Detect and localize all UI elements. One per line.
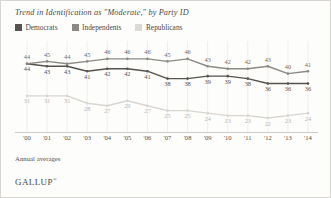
x-tick-label: '05 <box>123 134 131 141</box>
x-tick-label: '10 <box>224 134 232 141</box>
legend-label-democrats: Democrats <box>26 23 58 32</box>
data-label: 31 <box>24 97 30 104</box>
data-point <box>146 58 149 61</box>
data-label: 23 <box>225 117 231 124</box>
data-label: 31 <box>44 97 50 104</box>
data-label: 42 <box>104 70 110 77</box>
data-label: 28 <box>84 105 90 112</box>
legend-swatch-independents <box>72 24 79 31</box>
chart-title: Trend in Identification as "Moderate," b… <box>15 8 189 17</box>
data-point <box>86 60 89 63</box>
data-label: 46 <box>124 48 130 55</box>
data-label: 31 <box>64 97 70 104</box>
data-label: 39 <box>204 78 210 85</box>
registered-mark-icon: ® <box>53 177 57 182</box>
data-point <box>46 60 49 63</box>
line-chart-svg: 4443434142424138383939383636364445444546… <box>15 41 318 133</box>
data-point <box>307 70 310 73</box>
data-point <box>106 58 109 61</box>
legend-item-republicans: Republicans <box>135 23 182 32</box>
data-label: 46 <box>184 48 190 55</box>
plot-area: 4443434142424138383939383636364445444546… <box>15 41 318 133</box>
x-tick-label: '09 <box>204 134 212 141</box>
data-label: 38 <box>164 80 170 87</box>
data-label: 43 <box>265 56 271 63</box>
data-label: 23 <box>245 117 251 124</box>
data-label: 45 <box>44 51 50 58</box>
data-point <box>126 58 129 61</box>
x-tick-label: '04 <box>103 134 111 141</box>
x-tick-label: '11 <box>244 134 252 141</box>
x-tick-label: '02 <box>63 134 71 141</box>
data-label: 24 <box>305 115 312 122</box>
data-point <box>206 65 209 68</box>
data-label: 29 <box>124 102 130 109</box>
x-tick-label: '08 <box>184 134 192 141</box>
data-label: 36 <box>305 85 311 92</box>
chart-note: Annual averages <box>15 155 60 162</box>
legend-item-independents: Independents <box>72 23 122 32</box>
data-label: 43 <box>204 56 210 63</box>
legend-label-republicans: Republicans <box>146 23 183 32</box>
legend-item-democrats: Democrats <box>15 23 58 32</box>
data-label: 40 <box>285 63 291 70</box>
chart-legend: Democrats Independents Republicans <box>15 23 182 32</box>
data-label: 41 <box>144 73 150 80</box>
chart-card: Trend in Identification as "Moderate," b… <box>0 0 331 198</box>
data-label: 23 <box>285 117 291 124</box>
gallup-wordmark: GALLUP® <box>15 177 57 187</box>
gallup-wordmark-text: GALLUP <box>15 177 53 187</box>
x-tick-label: '00 <box>23 134 31 141</box>
data-label: 27 <box>104 107 110 114</box>
data-label: 36 <box>285 85 291 92</box>
data-label: 25 <box>164 112 170 119</box>
data-label: 44 <box>64 53 71 60</box>
data-point <box>166 60 169 63</box>
data-point <box>186 58 189 61</box>
data-label: 44 <box>24 65 31 72</box>
data-label: 24 <box>204 115 211 122</box>
data-label: 43 <box>64 68 70 75</box>
data-label: 45 <box>164 51 170 58</box>
x-tick-label: '13 <box>284 134 292 141</box>
data-label: 27 <box>144 107 150 114</box>
data-label: 41 <box>305 61 311 68</box>
data-point <box>226 67 229 70</box>
x-axis-tick-labels: '00'01'02'03'04'05'06'07'08'09'10'11'12'… <box>15 134 318 146</box>
data-label: 38 <box>245 80 251 87</box>
data-point <box>246 67 249 70</box>
x-tick-label: '14 <box>304 134 312 141</box>
data-point <box>26 63 29 66</box>
data-label: 42 <box>245 58 251 65</box>
x-tick-label: '03 <box>83 134 91 141</box>
data-label: 39 <box>225 78 231 85</box>
legend-swatch-democrats <box>15 24 22 31</box>
data-label: 42 <box>225 58 231 65</box>
data-label: 38 <box>184 80 190 87</box>
data-label: 44 <box>24 53 31 60</box>
data-label: 45 <box>84 51 90 58</box>
data-label: 36 <box>265 85 271 92</box>
data-label: 46 <box>144 48 150 55</box>
data-label: 25 <box>184 112 190 119</box>
legend-label-independents: Independents <box>82 23 121 32</box>
data-label: 46 <box>104 48 110 55</box>
data-label: 42 <box>124 70 130 77</box>
legend-swatch-republicans <box>135 24 142 31</box>
data-point <box>287 72 290 75</box>
data-point <box>267 65 270 68</box>
x-tick-label: '06 <box>144 134 152 141</box>
data-label: 22 <box>265 120 271 127</box>
data-label: 41 <box>84 73 90 80</box>
data-label: 43 <box>44 68 50 75</box>
x-tick-label: '12 <box>264 134 272 141</box>
data-point <box>66 63 69 66</box>
x-tick-label: '07 <box>164 134 172 141</box>
x-tick-label: '01 <box>43 134 51 141</box>
